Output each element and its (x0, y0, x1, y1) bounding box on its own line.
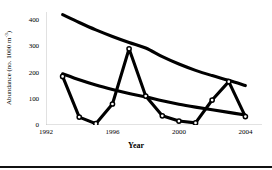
chart-canvas (46, 12, 262, 125)
data-point-marker (177, 119, 181, 123)
x-tick-label-2000: 2000 (172, 128, 186, 136)
series-upper-fitted-trend (63, 15, 246, 86)
data-point-marker (227, 80, 231, 84)
data-point-marker (110, 102, 114, 106)
plot-area (46, 12, 262, 125)
data-point-marker (210, 98, 214, 102)
data-point-marker (160, 114, 164, 118)
data-point-marker (144, 94, 148, 98)
figure-bottom-rule (0, 166, 272, 168)
data-point-marker (127, 47, 131, 51)
x-tick-label-1992: 1992 (39, 128, 53, 136)
data-point-marker (61, 74, 65, 78)
series-observed-markers (61, 47, 248, 125)
x-axis-title: Year (0, 141, 272, 151)
data-point-marker (94, 122, 98, 125)
data-point-marker (243, 114, 247, 118)
x-tick-label-2004: 2004 (238, 128, 252, 136)
series-group (61, 15, 248, 125)
x-tick-label-1996: 1996 (105, 128, 119, 136)
series-observed-line (63, 49, 246, 124)
y-tick-label-300: 300 (29, 43, 39, 50)
x-axis-tick-labels: 1992 1996 2000 2004 (46, 128, 262, 140)
y-tick-label-100: 100 (29, 95, 39, 102)
data-point-marker (77, 115, 81, 119)
data-point-marker (193, 121, 197, 125)
y-tick-label-200: 200 (29, 69, 39, 76)
chart-figure: Abundance (no. 1000 m-3) 0 100 200 300 4… (0, 0, 272, 170)
y-tick-label-400: 400 (29, 17, 39, 24)
y-axis-tick-labels: 0 100 200 300 400 (0, 12, 44, 125)
